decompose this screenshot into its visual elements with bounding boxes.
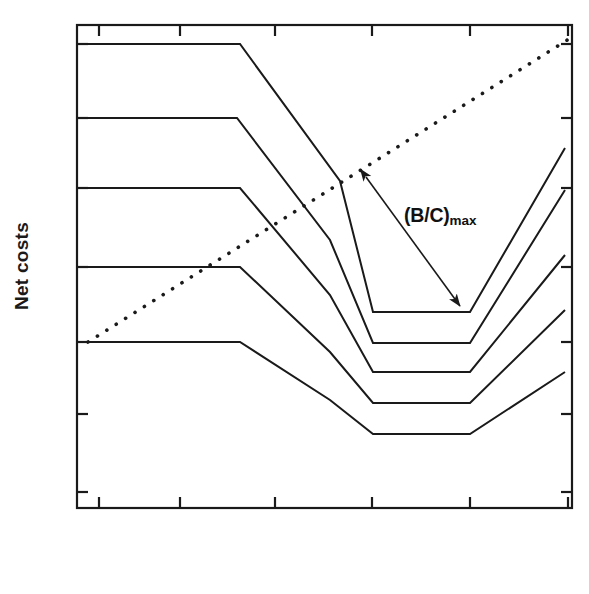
bc-max-subscript-text: max bbox=[450, 213, 477, 228]
chart-plot-area bbox=[0, 0, 589, 594]
bc-max-main-text: (B/C) bbox=[404, 204, 450, 226]
chart-figure: Net costs (B/C)max bbox=[0, 0, 589, 594]
bc-max-annotation-label: (B/C)max bbox=[404, 204, 477, 227]
